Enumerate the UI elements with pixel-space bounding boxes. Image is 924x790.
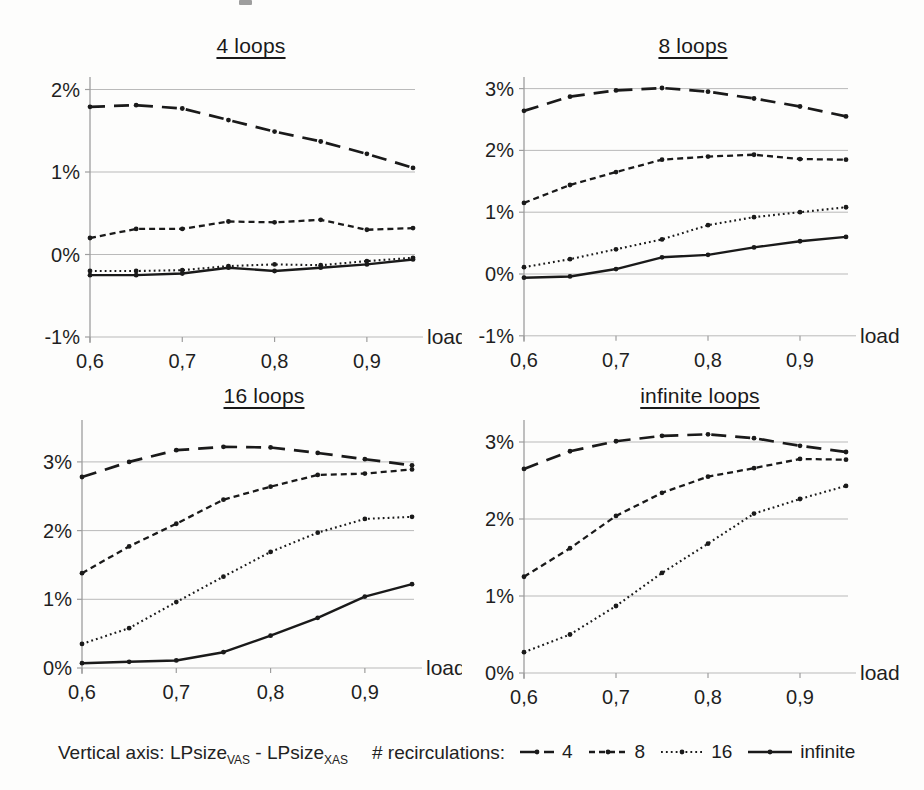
data-point-marker (410, 514, 415, 519)
series-4 (88, 103, 416, 171)
x-tick-label: 0,8 (694, 349, 722, 371)
legend-line-sample-infinite-icon (747, 745, 793, 759)
gridlines (82, 462, 422, 668)
data-point-marker (127, 659, 132, 664)
data-point-marker (226, 219, 231, 224)
data-point-marker (798, 239, 803, 244)
caption-prefix: Vertical axis: LPsize (58, 742, 227, 763)
scan-artifact (239, 0, 252, 5)
data-point-marker (88, 269, 93, 274)
data-point-marker (411, 226, 416, 231)
data-point-marker (127, 626, 132, 631)
data-point-marker (221, 574, 226, 579)
data-point-marker (706, 252, 711, 257)
data-point-marker (752, 152, 757, 157)
legend-marker (768, 750, 773, 755)
y-tick-label: 2% (485, 139, 514, 161)
series-16 (522, 205, 849, 270)
legend-item-label: 8 (635, 740, 646, 764)
data-point-marker (268, 445, 273, 450)
data-point-marker (844, 235, 849, 240)
data-point-marker (706, 223, 711, 228)
data-point-marker (752, 466, 757, 471)
data-point-marker (798, 497, 803, 502)
data-point-marker (844, 157, 849, 162)
data-point-marker (614, 514, 619, 519)
x-axis-label: load (860, 324, 900, 347)
data-point-marker (134, 227, 139, 232)
data-point-marker (88, 104, 93, 109)
data-point-marker (844, 450, 849, 455)
series-16 (80, 514, 415, 646)
legend-item-16: 16 (660, 740, 732, 764)
data-point-marker (411, 165, 416, 170)
data-point-marker (706, 474, 711, 479)
x-tick-labels: 0,60,70,80,9 (510, 686, 814, 708)
data-point-marker (268, 549, 273, 554)
y-tick-label: 2% (485, 508, 514, 530)
x-axis-label: load (426, 656, 462, 679)
x-tick-label: 0,6 (68, 681, 96, 703)
data-point-marker (752, 215, 757, 220)
data-point-marker (568, 632, 573, 637)
data-point-marker (706, 541, 711, 546)
legend-item-label: 16 (711, 740, 732, 764)
data-point-marker (318, 265, 323, 270)
data-point-marker (798, 210, 803, 215)
x-tick-label: 0,7 (168, 350, 196, 372)
y-tick-labels: -1%0%1%2%3% (478, 78, 514, 347)
x-tick-label: 0,8 (694, 686, 722, 708)
y-axis (85, 77, 367, 343)
data-point-marker (568, 449, 573, 454)
legend-line-sample-16-icon (660, 745, 704, 759)
data-point-marker (221, 650, 226, 655)
x-tick-label: 0,8 (261, 350, 289, 372)
y-tick-labels: 0%1%2%3% (485, 431, 514, 684)
x-tick-label: 0,7 (602, 686, 630, 708)
data-point-marker (174, 600, 179, 605)
y-tick-label: 0% (485, 662, 514, 684)
x-tick-label: 0,9 (351, 681, 379, 703)
y-axis (77, 420, 365, 674)
y-tick-label: 1% (43, 588, 72, 610)
data-point-marker (315, 615, 320, 620)
x-tick-labels: 0,60,70,80,9 (510, 349, 814, 371)
y-tick-label: 3% (485, 78, 514, 100)
data-point-marker (522, 201, 527, 206)
data-point-marker (660, 490, 665, 495)
data-point-marker (614, 604, 619, 609)
y-axis (519, 77, 800, 342)
data-point-marker (315, 473, 320, 478)
y-tick-label: 0% (485, 263, 514, 285)
data-point-marker (134, 103, 139, 108)
data-point-marker (362, 471, 367, 476)
y-tick-label: 2% (43, 520, 72, 542)
data-point-marker (268, 633, 273, 638)
data-point-marker (80, 642, 85, 647)
plot-4-loops: -1%0%1%2%0,60,70,80,9load (0, 60, 462, 390)
x-axis-label: load (427, 325, 462, 348)
data-point-marker (522, 650, 527, 655)
y-tick-label: 0% (43, 657, 72, 679)
data-point-marker (362, 517, 367, 522)
y-tick-label: 2% (51, 79, 80, 101)
legend-marker (605, 750, 610, 755)
vertical-axis-caption: Vertical axis: LPsizeVAS - LPsizeXAS (58, 742, 348, 764)
data-point-marker (364, 151, 369, 156)
data-point-marker (127, 544, 132, 549)
data-point-marker (88, 236, 93, 241)
data-point-marker (568, 94, 573, 99)
data-point-marker (614, 247, 619, 252)
series-8 (88, 217, 416, 240)
plot-16-loops: 0%1%2%3%0,60,70,80,9load (0, 400, 462, 730)
x-tick-label: 0,9 (786, 686, 814, 708)
data-point-marker (522, 108, 527, 113)
data-point-marker (410, 463, 415, 468)
data-point-marker (80, 475, 85, 480)
data-point-marker (226, 118, 231, 123)
series-16 (522, 483, 849, 654)
series-8 (522, 457, 849, 580)
x-axis-label: load (860, 661, 900, 684)
x-tick-label: 0,7 (602, 349, 630, 371)
x-tick-label: 0,7 (162, 681, 190, 703)
